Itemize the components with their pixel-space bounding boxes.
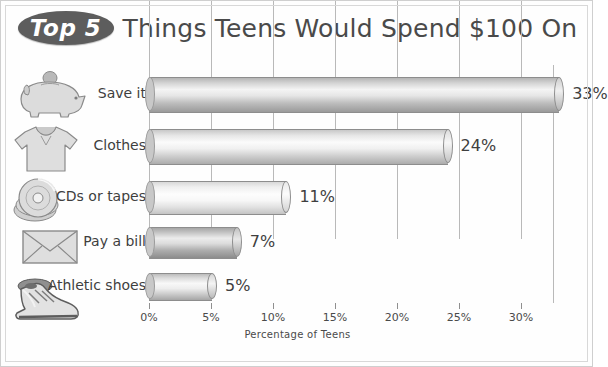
bar bbox=[149, 129, 448, 165]
value-label: 7% bbox=[250, 232, 275, 251]
top5-badge: Top 5 bbox=[18, 11, 114, 45]
value-label: 5% bbox=[225, 276, 250, 295]
x-tick bbox=[335, 303, 336, 309]
bar-end-cap bbox=[207, 273, 217, 299]
bar-left-cap bbox=[145, 273, 155, 299]
value-label: 33% bbox=[572, 84, 608, 103]
envelope-icon bbox=[21, 227, 79, 267]
x-tick bbox=[149, 303, 150, 309]
chart-title-text: Things Teens Would Spend $100 On bbox=[123, 14, 578, 43]
bar bbox=[149, 181, 286, 215]
bar-end-cap bbox=[443, 129, 453, 163]
bar-end-cap bbox=[232, 227, 242, 257]
chart-title: Top 5 Things Teens Would Spend $100 On bbox=[1, 7, 594, 49]
gridline bbox=[459, 1, 460, 239]
category-label: Athletic shoes bbox=[48, 277, 146, 293]
category-label: Pay a bill bbox=[83, 233, 146, 249]
bar bbox=[149, 273, 212, 301]
gridline bbox=[397, 1, 398, 239]
x-tick-label: 30% bbox=[509, 311, 533, 324]
x-tick bbox=[397, 303, 398, 309]
category-label: CDs or tapes bbox=[56, 188, 146, 204]
category-label: Clothes bbox=[94, 137, 147, 153]
x-tick bbox=[211, 303, 212, 309]
bar-left-cap bbox=[145, 129, 155, 163]
x-tick-label: 25% bbox=[447, 311, 471, 324]
piggy-bank-icon bbox=[11, 71, 87, 119]
bar-end-cap bbox=[281, 181, 291, 213]
x-axis-title: Percentage of Teens bbox=[1, 329, 594, 340]
bar bbox=[149, 77, 559, 113]
x-tick bbox=[521, 303, 522, 309]
gridline bbox=[335, 1, 336, 239]
tshirt-icon bbox=[11, 123, 81, 175]
x-tick-label: 20% bbox=[385, 311, 409, 324]
x-tick-label: 10% bbox=[261, 311, 285, 324]
top5-badge-label: Top 5 bbox=[30, 15, 102, 41]
x-tick-label: 0% bbox=[140, 311, 157, 324]
x-tick bbox=[273, 303, 274, 309]
bar bbox=[149, 227, 237, 259]
bar-left-cap bbox=[145, 181, 155, 213]
value-label: 24% bbox=[461, 136, 497, 155]
bar-left-cap bbox=[145, 77, 155, 111]
gridline bbox=[521, 1, 522, 239]
value-label: 11% bbox=[299, 187, 335, 206]
category-label: Save it bbox=[98, 85, 146, 101]
x-tick-label: 5% bbox=[202, 311, 219, 324]
bar-end-cap bbox=[554, 77, 564, 111]
bar-left-cap bbox=[145, 227, 155, 257]
x-tick bbox=[459, 303, 460, 309]
x-tick-label: 15% bbox=[323, 311, 347, 324]
